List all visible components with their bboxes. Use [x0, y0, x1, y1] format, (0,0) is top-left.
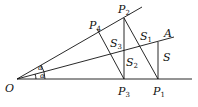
point-label-a: A	[163, 27, 172, 40]
segment-p1-p2	[124, 18, 158, 79]
point-label-p4: P4	[88, 19, 101, 33]
angle-label-upper: α	[38, 64, 43, 72]
area-label-s3: S3	[110, 37, 122, 51]
area-label-s: S	[163, 51, 171, 64]
point-label-o: O	[5, 82, 14, 95]
angle-arc-inner	[35, 74, 36, 79]
upper-ray	[17, 7, 142, 79]
geometry-diagram: α α O P3 P1 P2 P4 A S S1 S2 S3	[0, 0, 198, 107]
area-label-s1: S1	[140, 30, 152, 44]
point-label-p3: P3	[117, 85, 130, 99]
area-label-s2: S2	[126, 56, 138, 70]
angle-label-lower: α	[40, 72, 45, 80]
point-label-p2: P2	[117, 3, 130, 17]
point-label-p1: P1	[152, 85, 165, 99]
